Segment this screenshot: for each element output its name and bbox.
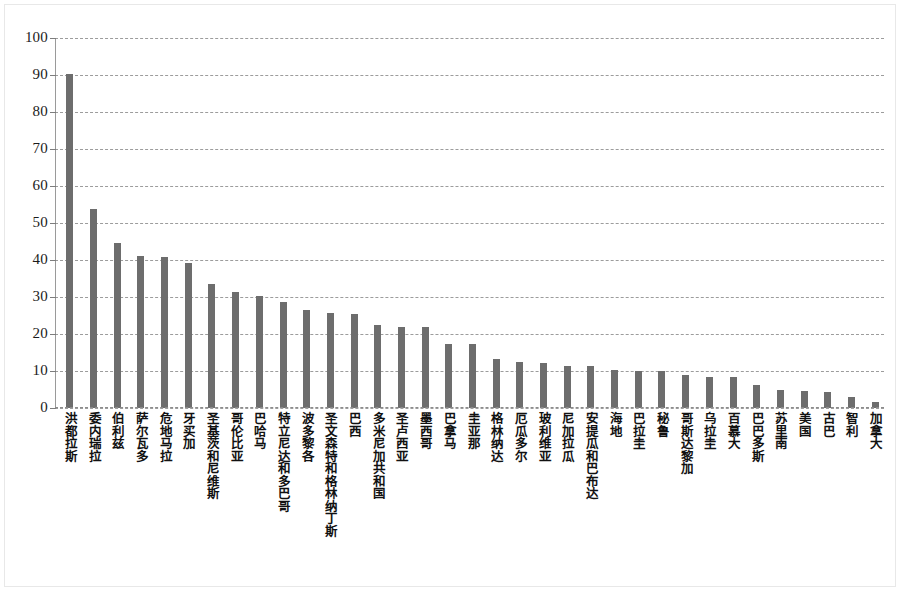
y-tick-label-100: 100 [25,30,48,45]
x-tick-label: 安提瓜和巴布达 [584,412,597,500]
x-tick-label: 智利 [844,412,857,437]
bar [824,392,831,408]
x-tick-label: 美国 [797,412,810,437]
x-tick-label: 玻利维亚 [537,412,550,462]
x-tick-label: 危地马拉 [158,412,171,462]
x-tick-label: 墨西哥 [418,412,431,450]
x-tick-label: 哥伦比亚 [229,412,242,462]
bar [137,256,144,408]
bar [753,385,760,408]
x-tick-label: 巴哈马 [252,412,265,450]
bar [801,391,808,408]
bar [66,74,73,408]
bar [398,327,405,408]
x-tick-label: 牙买加 [181,412,194,450]
bar [706,377,713,408]
bar [445,344,452,408]
bar [777,390,784,408]
y-tick-label-80: 80 [33,104,48,119]
bar [90,209,97,408]
bar [682,375,689,408]
bar [587,366,594,408]
x-tick-label: 海地 [608,412,621,437]
bar [208,284,215,408]
x-tick-label: 古巴 [821,412,834,437]
y-tick-label-20: 20 [33,326,48,341]
chart-page: 0102030405060708090100 洪都拉斯委内瑞拉伯利兹萨尔瓦多危地… [0,0,900,591]
bar [303,310,310,408]
x-axis-baseline [55,407,884,408]
bar [493,359,500,408]
x-tick-label: 洪都拉斯 [63,412,76,462]
x-tick-label: 巴拿马 [442,412,455,450]
y-tick-label-90: 90 [33,67,48,82]
x-tick-label: 巴拉圭 [631,412,644,450]
x-tick-label: 圣文森特和格林纳丁斯 [323,412,336,537]
y-tick-label-30: 30 [33,289,48,304]
bar [516,362,523,408]
x-tick-label: 尼加拉瓜 [560,412,573,462]
bar [540,363,547,408]
x-tick-label: 伯利兹 [110,412,123,450]
x-axis-labels: 洪都拉斯委内瑞拉伯利兹萨尔瓦多危地马拉牙买加圣基茨和尼维斯哥伦比亚巴哈马特立尼达… [55,412,884,587]
x-tick-label: 巴西 [347,412,360,437]
bar [114,243,121,408]
x-tick-label: 圣基茨和尼维斯 [205,412,218,500]
x-tick-label: 乌拉圭 [702,412,715,450]
y-tick-label-50: 50 [33,215,48,230]
x-tick-label: 百慕大 [726,412,739,450]
x-tick-label: 圭亚那 [466,412,479,450]
bar [280,302,287,408]
bar [374,325,381,408]
y-axis-labels: 0102030405060708090100 [0,0,48,591]
x-tick-label: 秘鲁 [655,412,668,437]
plot-area [55,38,884,408]
x-tick-label: 波多黎各 [300,412,313,462]
bar-series [55,38,884,408]
bar [327,313,334,408]
bar [185,263,192,408]
x-tick-label: 巴巴多斯 [750,412,763,462]
bar [161,257,168,408]
bar [256,296,263,408]
x-tick-label: 委内瑞拉 [87,412,100,462]
bar [351,314,358,408]
x-tick-label: 哥斯达黎加 [679,412,692,475]
x-tick-label: 厄瓜多尔 [513,412,526,462]
bar [232,292,239,408]
y-tick-0 [50,408,56,409]
x-tick-label: 加拿大 [868,412,881,450]
x-tick-label: 圣卢西亚 [394,412,407,462]
x-tick-label: 萨尔瓦多 [134,412,147,462]
x-tick-label: 格林纳达 [489,412,502,462]
y-tick-label-60: 60 [33,178,48,193]
bar [635,371,642,408]
y-tick-label-70: 70 [33,141,48,156]
bar [469,344,476,408]
y-tick-label-10: 10 [33,363,48,378]
gridline-0 [55,408,884,409]
y-tick-label-0: 0 [40,400,48,415]
x-tick-label: 特立尼达和多巴哥 [276,412,289,512]
bar [564,366,571,408]
x-tick-label: 多米尼加共和国 [371,412,384,500]
bar [611,370,618,408]
x-tick-label: 苏里南 [773,412,786,450]
y-tick-label-40: 40 [33,252,48,267]
bar [730,377,737,408]
bar [422,327,429,408]
bar [658,371,665,408]
